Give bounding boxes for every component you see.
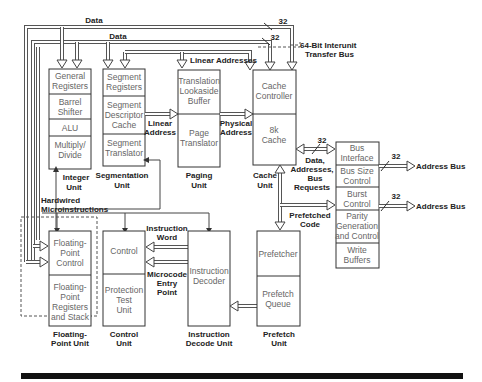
protection-test-text-3: Unit — [116, 305, 132, 315]
data-bus-label-top: Data — [85, 16, 103, 25]
data-bus-label-second: Data — [109, 32, 127, 41]
linear-address-arrow — [145, 109, 178, 119]
bus-interface-text: Bus — [350, 143, 365, 153]
control-unit-label: Control — [110, 330, 138, 339]
cache-8k-text: 8k — [270, 125, 280, 135]
segment-registers-text: Segment — [107, 72, 142, 82]
floating-point-unit-label-2: Point Unit — [51, 339, 89, 348]
bus-interface-text-2: Interface — [340, 153, 373, 163]
data-addr-label-4: Requests — [294, 183, 331, 192]
data-addr-label-2: Addresses, — [290, 165, 333, 174]
microinstructions-label: Microinstructions — [41, 205, 109, 214]
address-bus-2-label: Address Bus — [416, 202, 466, 211]
parity-text-3: and Control — [335, 231, 379, 241]
segment-translator-text-2: Translator — [105, 148, 143, 158]
bus-size-control-text: Bus Size — [340, 166, 374, 176]
barrel-shifter-text: Barrel — [59, 97, 82, 107]
control-text: Control — [110, 246, 138, 256]
integer-unit-label-2: Unit — [66, 183, 82, 192]
cache-unit-label-2: Unit — [257, 181, 273, 190]
general-registers-text: General — [55, 71, 85, 81]
bus-size-control-text-2: Control — [343, 176, 371, 186]
fp-registers-text-2: Point — [60, 292, 80, 302]
prefetcher-text: Prefetcher — [258, 249, 297, 259]
data-addr-label: Data, — [305, 156, 325, 165]
instruction-decoder-text: Instruction — [189, 266, 228, 276]
microcode-entry-label-3: Point — [157, 288, 177, 297]
cache-controller-text: Cache — [262, 81, 287, 91]
interunit-bus-label-2: Transfer Bus — [305, 50, 354, 59]
hardwired-label: Hardwired — [41, 196, 80, 205]
linear-address-label: Linear — [148, 119, 172, 128]
address-bus-1-label: Address Bus — [416, 162, 466, 171]
linear-address-label-2: Address — [144, 128, 177, 137]
bottom-rule — [21, 373, 463, 379]
floating-point-unit: Floating- Point Control Floating- Point … — [49, 231, 91, 348]
paging-unit-label: Paging — [186, 171, 213, 180]
paging-unit: Translation Lookaside Buffer Page Transl… — [178, 70, 220, 190]
address-bus-1-arrow — [379, 161, 415, 171]
tlb-text: Translation — [178, 76, 220, 86]
floating-point-unit-label: Floating- — [53, 330, 87, 339]
fp-control-text-3: Control — [56, 258, 84, 268]
integer-unit-label: Integer — [63, 173, 90, 182]
down-arrowheads — [57, 60, 297, 70]
cache-bus-arrow — [296, 144, 335, 154]
fp-control-text-2: Point — [60, 248, 80, 258]
segmentation-unit-label-2: Unit — [114, 181, 130, 190]
address-bus-2-width: 32 — [392, 192, 401, 201]
tlb-text-3: Buffer — [188, 96, 211, 106]
multiply-divide-text: Multiply/ — [54, 140, 86, 150]
multiply-divide-text-2: Divide — [58, 150, 82, 160]
segment-registers-text-2: Registers — [106, 82, 142, 92]
prefetch-queue-text-2: Queue — [265, 299, 291, 309]
physical-address-arrow — [220, 109, 253, 119]
prefetch-unit-label: Prefetch — [263, 330, 295, 339]
instruction-decode-unit: Instruction Decoder Instruction Decode U… — [186, 231, 233, 348]
physical-address-label-2: Address — [220, 128, 253, 137]
prefetch-queue-text: Prefetch — [262, 289, 294, 299]
paging-unit-label-2: Unit — [191, 181, 207, 190]
instruction-word-label: Instruction — [146, 224, 187, 233]
protection-test-text: Protection — [105, 285, 144, 295]
cache-8k-text-2: Cache — [262, 135, 287, 145]
fp-registers-text: Floating- — [53, 282, 86, 292]
microcode-entry-label-2: Entry — [157, 279, 178, 288]
fp-registers-text-4: and Stack — [51, 312, 90, 322]
page-translator-text-2: Translator — [180, 138, 218, 148]
prefetched-code-label: Prefetched — [289, 211, 330, 220]
write-buffers-text: Write — [347, 245, 367, 255]
bus-interface-unit: Bus Interface Bus Size Control Burst Con… — [335, 142, 379, 268]
integer-unit: General Registers Barrel Shifter ALU Mul… — [49, 69, 91, 192]
data-addr-label-3: Bus — [307, 174, 323, 183]
general-registers-text-2: Registers — [52, 81, 88, 91]
fp-registers-text-3: Registers — [52, 302, 88, 312]
fp-control-text: Floating- — [53, 238, 86, 248]
cache-unit-label: Cache — [253, 171, 278, 180]
instruction-decode-unit-label-2: Decode Unit — [186, 339, 233, 348]
burst-control-text-2: Control — [343, 199, 371, 209]
cache-controller-text-2: Controller — [256, 91, 293, 101]
linear-addresses-label: Linear Addresses — [190, 56, 257, 65]
parity-text: Parity — [346, 211, 368, 221]
prefetch-unit: Prefetcher Prefetch Queue Prefetch Unit — [257, 231, 300, 348]
segmentation-unit: Segment Registers Segment Descriptor Cac… — [96, 69, 149, 190]
segment-descriptor-text-3: Cache — [112, 120, 137, 130]
protection-test-text-2: Test — [116, 295, 132, 305]
address-bus-1-width: 32 — [392, 152, 401, 161]
fp-data-arrows — [26, 241, 48, 267]
segmentation-unit-label: Segmentation — [96, 171, 149, 180]
instruction-word-label-2: Word — [157, 233, 177, 242]
instruction-decode-unit-label: Instruction — [188, 330, 229, 339]
alu-text: ALU — [62, 123, 79, 133]
prefetched-code-label-2: Code — [300, 220, 321, 229]
segment-descriptor-text-2: Descriptor — [105, 110, 144, 120]
interunit-bus-label-1: 64-Bit Interunit — [300, 41, 357, 50]
instruction-decoder-text-2: Decoder — [193, 276, 225, 286]
page-translator-text: Page — [189, 128, 209, 138]
segment-translator-text: Segment — [107, 138, 142, 148]
parity-text-2: Generation — [336, 221, 378, 231]
prefetch-to-decoder-arrow — [230, 301, 257, 311]
bus-width-32-b: 32 — [271, 33, 280, 42]
segment-descriptor-text: Segment — [107, 100, 142, 110]
